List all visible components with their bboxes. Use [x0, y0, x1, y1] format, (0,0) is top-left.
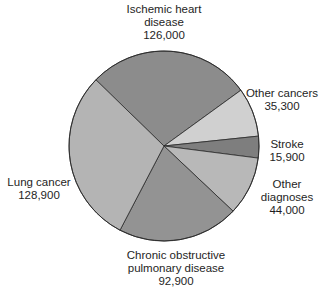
label-ischemic-line1: Ischemic heart	[114, 3, 214, 16]
label-ischemic-line2: disease	[114, 16, 214, 29]
label-stroke-value: 15,900	[262, 151, 312, 164]
label-copd-line1: Chronic obstructive	[116, 249, 236, 262]
label-stroke: Stroke 15,900	[262, 138, 312, 164]
label-other-diagnoses-line2: diagnoses	[252, 191, 322, 204]
label-lung-cancer: Lung cancer 128,900	[4, 176, 74, 202]
label-other-diagnoses-line1: Other	[252, 178, 322, 191]
label-copd-value: 92,900	[116, 275, 236, 288]
label-copd-line2: pulmonary disease	[116, 262, 236, 275]
label-lung-cancer-value: 128,900	[4, 189, 74, 202]
label-lung-cancer-line1: Lung cancer	[4, 176, 74, 189]
label-ischemic-heart-disease: Ischemic heart disease 126,000	[114, 3, 214, 42]
label-other-diagnoses-value: 44,000	[252, 204, 322, 217]
label-other-cancers: Other cancers 35,300	[242, 87, 322, 113]
label-stroke-line1: Stroke	[262, 138, 312, 151]
label-ischemic-value: 126,000	[114, 29, 214, 42]
label-other-cancers-line1: Other cancers	[242, 87, 322, 100]
label-other-cancers-value: 35,300	[242, 100, 322, 113]
label-other-diagnoses: Other diagnoses 44,000	[252, 178, 322, 217]
label-copd: Chronic obstructive pulmonary disease 92…	[116, 249, 236, 288]
